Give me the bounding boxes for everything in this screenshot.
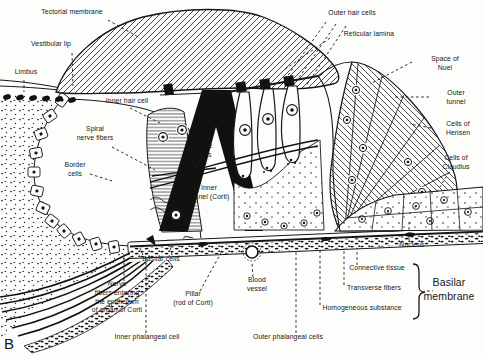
label-basilar-cells: Basilar cells [142, 255, 180, 264]
label-pillar-rod-of-corti: Pillar (rod of Corti) [173, 290, 213, 308]
label-limbus: Limbus [15, 68, 38, 77]
label-reticular-lamina: Reticular lamina [344, 30, 394, 39]
label-blood-vessel: Blood vessel [247, 276, 267, 294]
label-nucleus: Nucleus [399, 241, 424, 250]
label-cells-of-claudius: Cells of Claudius [442, 154, 469, 172]
diagram-artwork [0, 0, 483, 358]
label-nerve-fibers: Nerve fibers [194, 142, 213, 160]
label-border-cells: Border cells [64, 161, 85, 179]
label-space-of-nuel: Space of Nuel [426, 55, 464, 73]
label-nerve-fibers-entering: Nerve fibers entering the epithelium of … [92, 280, 142, 315]
label-tectorial-membrane: Tectorial membrane [41, 8, 103, 17]
label-connective-tissue: Connective tissue [349, 264, 404, 273]
label-transverse-fibers: Transverse fibers [347, 284, 401, 293]
figure-organ-of-corti: Tectorial membrane Vestibular lip Limbus… [0, 0, 483, 358]
label-spiral-nerve-fibers: Spiral nerve fibers [77, 125, 114, 143]
label-homogeneous-substance: Homogeneous substance [322, 304, 401, 313]
label-vestibular-lip: Vestibular lip [31, 40, 71, 49]
panel-letter: B [4, 334, 14, 354]
label-outer-hair-cells: Outer hair cells [328, 9, 375, 18]
label-basilar-membrane: Basilar membrane [424, 275, 475, 303]
label-outer-tunnel: Outer tunnel [443, 89, 470, 107]
label-cells-of-hensen: Cells of Hensen [446, 120, 470, 138]
label-inner-tunnel-corti: Inner tunnel (Corti) [189, 184, 230, 202]
label-outer-phalangeal-cells: Outer phalangeal cells [253, 333, 323, 342]
blood-vessel-shape [243, 243, 261, 261]
label-inner-hair-cell: Inner hair cell [106, 97, 148, 106]
label-inner-phalangeal-cell: Inner phalangeal cell [115, 333, 180, 342]
